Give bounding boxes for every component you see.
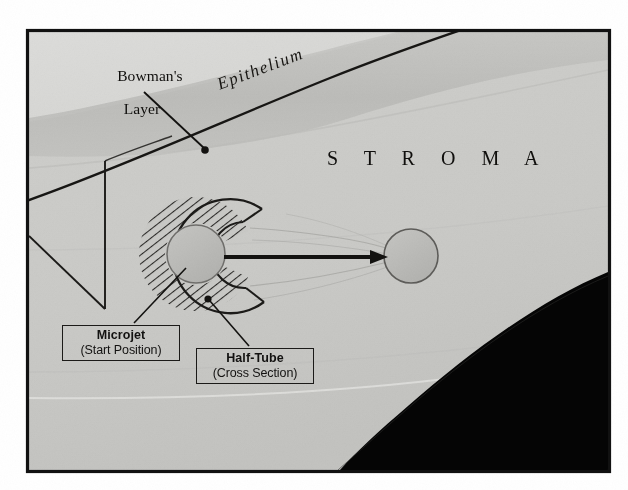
bowmans-layer-label: Bowman's Layer <box>78 52 206 150</box>
figure-root: Bowman's Layer Epithelium S T R O M A Mi… <box>0 0 628 490</box>
microjet-callout-line2: (Start Position) <box>67 343 175 358</box>
halftube-callout-line2: (Cross Section) <box>201 366 309 381</box>
halftube-callout-box: Half-Tube (Cross Section) <box>196 348 314 384</box>
halftube-callout-line1: Half-Tube <box>201 351 309 366</box>
bowmans-layer-label-line1: Bowman's <box>117 67 183 84</box>
microjet-callout-line1: Microjet <box>67 328 175 343</box>
bowmans-layer-label-line2: Layer <box>78 101 206 117</box>
stroma-label: S T R O M A <box>327 148 549 169</box>
microjet-callout-box: Microjet (Start Position) <box>62 325 180 361</box>
microjet-start-circle <box>167 225 225 283</box>
microjet-end-circle <box>384 229 438 283</box>
